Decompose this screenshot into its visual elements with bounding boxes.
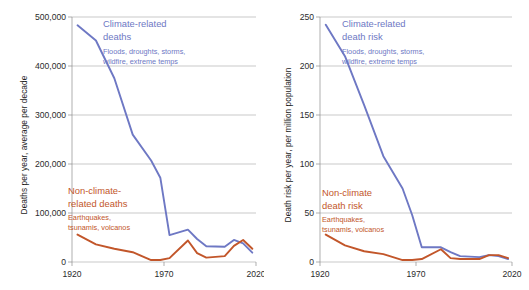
climate-annotation-subtitle-line: wildfire, extreme temps [102,57,178,66]
figure-two-panel-chart: Deaths per year, average per decade 0100… [0,0,529,290]
nonclimate-annotation-title-line: related deaths [68,198,128,209]
x-tick-label: 1920 [310,269,329,279]
x-tick-label: 1970 [406,269,425,279]
climate-annotation-subtitle-line: Floods, droughts, storms, [103,47,185,56]
series-line-non-climate-related-deaths [78,235,253,260]
climate-annotation-title-line: deaths [103,31,131,42]
nonclimate-annotation-subtitle-line: Earthquakes, [322,215,365,224]
chart-panel-deaths: Deaths per year, average per decade 0100… [0,0,264,290]
plot-svg-right: 050100150200250192019702020Climate-relat… [264,0,529,290]
climate-annotation-title-line: Climate-related [103,18,167,29]
y-tick-label: 300,000 [35,110,66,120]
climate-annotation-title-line: death risk [342,31,383,42]
x-tick-label: 2020 [502,269,521,279]
nonclimate-annotation-title-line: Non-climate- [68,185,121,196]
nonclimate-annotation-subtitle-line: Earthquakes, [68,213,111,222]
climate-annotation-subtitle-line: Floods, droughts, storms, [342,47,424,56]
x-tick-label: 1970 [154,269,173,279]
y-tick-label: 400,000 [35,61,66,71]
y-tick-label: 500,000 [35,12,66,22]
chart-panel-death-risk: Death risk per year, per million populat… [264,0,529,290]
y-tick-label: 100,000 [35,208,66,218]
y-tick-label: 250 [300,12,315,22]
plot-svg-left: 0100,000200,000300,000400,000500,0001920… [0,0,264,290]
y-tick-label: 0 [309,257,314,267]
y-tick-label: 150 [300,110,315,120]
plot-area-right: 050100150200250192019702020Climate-relat… [264,0,529,290]
x-tick-label: 1920 [62,269,81,279]
x-tick-label: 2020 [246,269,264,279]
climate-annotation-subtitle-line: wildfire, extreme temps [341,57,417,66]
plot-area-left: 0100,000200,000300,000400,000500,0001920… [0,0,264,290]
y-tick-label: 0 [61,257,66,267]
climate-annotation-title-line: Climate-related [342,18,406,29]
nonclimate-annotation-subtitle-line: tsunamis, volcanos [322,225,384,234]
nonclimate-annotation-title-line: Non-climate [322,187,372,198]
y-tick-label: 50 [304,208,314,218]
nonclimate-annotation-subtitle-line: tsunamis, volcanos [68,223,130,232]
nonclimate-annotation-title-line: death risk [322,200,363,211]
y-tick-label: 200 [300,61,315,71]
y-tick-label: 200,000 [35,159,66,169]
y-tick-label: 100 [300,159,315,169]
